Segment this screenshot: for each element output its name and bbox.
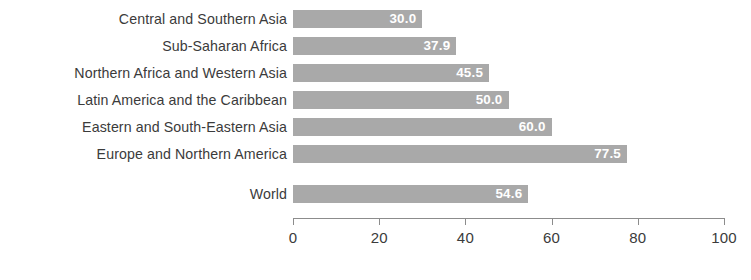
chart-row: Central and Southern Asia30.0 (0, 10, 751, 28)
bar[interactable]: 60.0 (293, 118, 552, 136)
x-tick (379, 218, 380, 225)
chart-row: Eastern and South-Eastern Asia60.0 (0, 118, 751, 136)
x-axis: 020406080100 (293, 218, 724, 219)
bar[interactable]: 37.9 (293, 37, 456, 55)
x-tick (465, 218, 466, 225)
x-tick (638, 218, 639, 225)
category-label: Latin America and the Caribbean (0, 91, 287, 109)
chart-row: Latin America and the Caribbean50.0 (0, 91, 751, 109)
bar[interactable]: 77.5 (293, 145, 627, 163)
x-tick-label: 100 (711, 229, 737, 246)
bar-value-label: 54.6 (495, 185, 528, 203)
bar-track: 54.6 (293, 185, 724, 203)
bar-value-label: 60.0 (519, 118, 552, 136)
bar-value-label: 45.5 (456, 64, 489, 82)
bar-track: 50.0 (293, 91, 724, 109)
x-axis-line (293, 218, 724, 219)
chart-row: World54.6 (0, 185, 751, 203)
x-tick-label: 60 (543, 229, 560, 246)
bar-value-label: 37.9 (423, 37, 456, 55)
bar-track: 45.5 (293, 64, 724, 82)
x-tick-label: 80 (629, 229, 646, 246)
bar-track: 30.0 (293, 10, 724, 28)
bar-value-label: 50.0 (476, 91, 509, 109)
bar-value-label: 77.5 (594, 145, 627, 163)
category-label: Sub-Saharan Africa (0, 37, 287, 55)
chart-row: Northern Africa and Western Asia45.5 (0, 64, 751, 82)
bar-track: 37.9 (293, 37, 724, 55)
x-tick-label: 20 (371, 229, 388, 246)
x-tick (552, 218, 553, 225)
category-label: World (0, 185, 287, 203)
category-label: Northern Africa and Western Asia (0, 64, 287, 82)
bar-value-label: 30.0 (389, 10, 422, 28)
chart-row: Sub-Saharan Africa37.9 (0, 37, 751, 55)
x-tick (724, 218, 725, 225)
x-tick (293, 218, 294, 225)
bar[interactable]: 50.0 (293, 91, 509, 109)
x-tick-label: 0 (289, 229, 298, 246)
chart-row: Europe and Northern America77.5 (0, 145, 751, 163)
x-tick-label: 40 (457, 229, 474, 246)
category-label: Central and Southern Asia (0, 10, 287, 28)
bar-track: 77.5 (293, 145, 724, 163)
category-label: Eastern and South-Eastern Asia (0, 118, 287, 136)
bar[interactable]: 45.5 (293, 64, 489, 82)
bar-chart: Central and Southern Asia30.0Sub-Saharan… (0, 0, 751, 280)
bar[interactable]: 54.6 (293, 185, 528, 203)
bar[interactable]: 30.0 (293, 10, 422, 28)
bar-track: 60.0 (293, 118, 724, 136)
category-label: Europe and Northern America (0, 145, 287, 163)
